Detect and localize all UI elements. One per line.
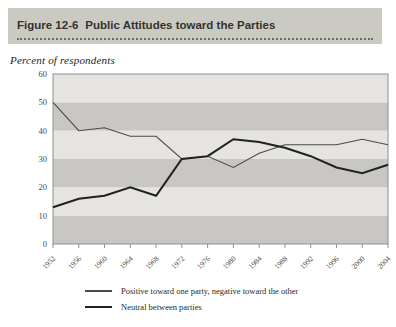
dotted-rule [17, 38, 373, 40]
legend-item: Neutral between parties [85, 302, 298, 312]
x-axis-tick-label: 1988 [272, 254, 289, 270]
y-axis-tick-label: 40 [39, 126, 48, 136]
y-axis-caption: Percent of respondents [10, 54, 115, 66]
y-axis-tick-label: 60 [39, 70, 48, 79]
x-axis-tick-label: 1976 [195, 254, 212, 270]
x-axis-tick-label: 1960 [92, 254, 109, 270]
chart-band [53, 102, 388, 130]
chart-svg: 0102030405060195219561960196419681972197… [0, 70, 396, 270]
y-axis-tick-label: 20 [39, 182, 48, 192]
x-axis-tick-label: 1980 [221, 254, 238, 270]
legend-line-swatch-thick [85, 306, 112, 308]
x-axis-tick-label: 1992 [298, 254, 315, 270]
x-axis-tick-label: 2004 [375, 254, 392, 270]
y-axis-tick-label: 50 [39, 97, 48, 107]
legend-label: Positive toward one party, negative towa… [121, 286, 298, 296]
figure-header: Figure 12-6Public Attitudes toward the P… [8, 8, 382, 44]
legend-line-swatch-thin [85, 290, 112, 291]
y-axis-tick-label: 0 [43, 239, 47, 249]
x-axis-tick-label: 1956 [66, 254, 83, 270]
y-axis-tick-label: 10 [39, 211, 48, 221]
chart-band [53, 74, 388, 102]
x-axis-tick-label: 1952 [40, 254, 57, 270]
legend-label: Neutral between parties [121, 302, 202, 312]
x-axis-tick-label: 1984 [247, 254, 264, 270]
figure-number: Figure 12-6 [17, 19, 78, 31]
y-axis-tick-label: 30 [39, 154, 48, 164]
x-axis-tick-label: 2000 [350, 254, 367, 270]
chart-band [53, 216, 388, 244]
legend: Positive toward one party, negative towa… [85, 286, 298, 318]
figure-title: Public Attitudes toward the Parties [85, 19, 275, 31]
chart-band [53, 187, 388, 215]
x-axis-tick-label: 1968 [144, 254, 161, 270]
legend-item: Positive toward one party, negative towa… [85, 286, 298, 296]
chart-band [53, 159, 388, 187]
x-axis-tick-label: 1964 [118, 254, 135, 270]
figure: Figure 12-6Public Attitudes toward the P… [0, 0, 396, 327]
x-axis-tick-label: 1972 [169, 254, 186, 270]
x-axis-tick-label: 1996 [324, 254, 341, 270]
